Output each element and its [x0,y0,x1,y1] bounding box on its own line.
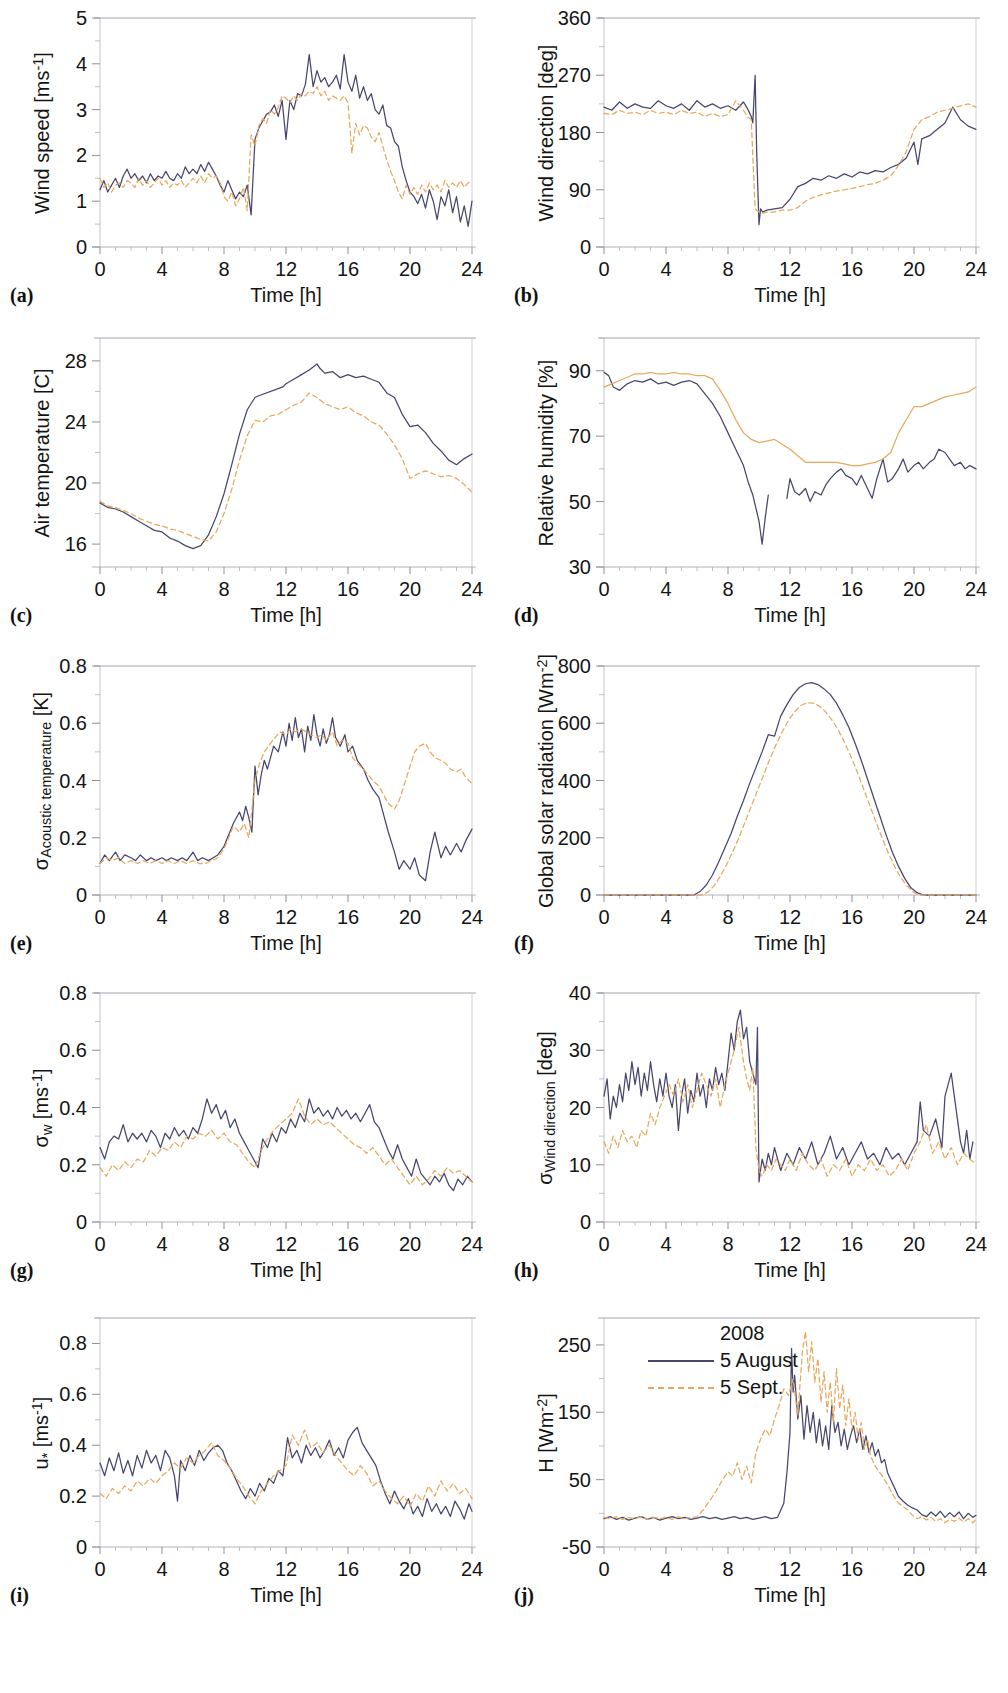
y-tick-label: 0.6 [59,1039,87,1061]
x-tick-label: 4 [156,1558,167,1580]
x-tick-label: 20 [399,906,421,928]
y-axis-label-c: Air temperature [C] [31,368,54,537]
subplot-b: 04812162024090180270360Wind direction [d… [504,0,1008,320]
x-tick-label: 12 [779,1233,801,1255]
x-tick-label: 0 [598,258,609,280]
panel-letter-b: (b) [514,284,538,307]
x-tick-label: 16 [841,906,863,928]
x-tick-label: 8 [218,1233,229,1255]
figure-root: 04812162024012345Wind speed [ms-1]Time [… [0,0,1008,1693]
y-tick-label: 24 [65,411,87,433]
x-tick-label: 8 [722,1558,733,1580]
x-tick-label: 16 [841,1558,863,1580]
y-tick-label: 20 [65,472,87,494]
x-tick-label: 16 [337,1558,359,1580]
y-tick-label: 28 [65,350,87,372]
plot-area-i: 0481216202400.20.40.60.8 [0,1300,504,1620]
y-tick-label: 0.6 [59,712,87,734]
y-axis-label-j: H [Wm-2] [534,1393,558,1472]
y-tick-label: 600 [558,712,591,734]
y-tick-label: 20 [569,1097,591,1119]
x-tick-label: 12 [275,906,297,928]
plot-area-d: 0481216202430507090 [504,320,1008,640]
y-tick-label: 270 [558,64,591,86]
y-tick-label: 400 [558,770,591,792]
y-tick-label: 360 [558,7,591,29]
plot-area-h: 04812162024010203040 [504,975,1008,1295]
x-tick-label: 0 [598,1233,609,1255]
y-tick-label: 0.2 [59,1154,87,1176]
subplot-e: 0481216202400.20.40.60.8σAcoustic temper… [0,648,504,968]
y-tick-label: -50 [562,1536,591,1558]
x-tick-label: 12 [275,1558,297,1580]
series-line-august [787,449,976,501]
x-tick-label: 4 [156,578,167,600]
x-tick-label: 0 [94,906,105,928]
y-tick-label: 0.2 [59,1485,87,1507]
x-tick-label: 24 [461,578,483,600]
panel-letter-i: (i) [10,1584,29,1607]
y-tick-label: 0.2 [59,827,87,849]
y-tick-label: 250 [558,1334,591,1356]
x-tick-label: 4 [660,906,671,928]
series-line-september [604,703,976,895]
y-axis-label-i: u* [ms-1] [29,1396,55,1469]
x-tick-label: 24 [965,906,987,928]
plot-area-e: 0481216202400.20.40.60.8 [0,648,504,968]
x-tick-label: 4 [156,258,167,280]
x-axis-label-h: Time [h] [690,1259,890,1282]
x-tick-label: 8 [218,258,229,280]
x-tick-label: 12 [275,258,297,280]
x-tick-label: 4 [156,906,167,928]
y-axis-label-f: Global solar radiation [Wm-2] [534,653,558,907]
x-tick-label: 20 [399,258,421,280]
x-tick-label: 24 [965,578,987,600]
x-tick-label: 12 [779,1558,801,1580]
x-tick-label: 0 [598,906,609,928]
x-axis-label-b: Time [h] [690,284,890,307]
x-tick-label: 8 [218,1558,229,1580]
y-axis-label-h: σWind direction [deg] [534,1031,559,1185]
series-line-august [604,75,976,224]
subplot-a: 04812162024012345Wind speed [ms-1]Time [… [0,0,504,320]
y-tick-label: 5 [76,7,87,29]
x-tick-label: 8 [722,258,733,280]
y-axis-label-e: σAcoustic temperature [K] [30,691,55,869]
panel-letter-h: (h) [514,1259,538,1282]
y-tick-label: 0 [580,884,591,906]
series-line-september [604,101,976,214]
y-tick-label: 0 [76,1536,87,1558]
panel-letter-c: (c) [10,604,32,627]
panel-letter-e: (e) [10,932,32,955]
x-tick-label: 8 [722,906,733,928]
y-tick-label: 0.4 [59,770,87,792]
series-line-september [100,729,472,864]
x-tick-label: 12 [779,578,801,600]
x-tick-label: 20 [903,1558,925,1580]
x-axis-label-a: Time [h] [186,284,386,307]
x-tick-label: 12 [275,578,297,600]
panel-letter-f: (f) [514,932,534,955]
y-tick-label: 90 [569,179,591,201]
x-tick-label: 12 [275,1233,297,1255]
x-axis-label-i: Time [h] [186,1584,386,1607]
x-axis-label-e: Time [h] [186,932,386,955]
x-tick-label: 8 [218,578,229,600]
x-tick-label: 8 [218,906,229,928]
series-line-september [604,372,976,465]
y-tick-label: 0.4 [59,1097,87,1119]
y-tick-label: 16 [65,533,87,555]
subplot-f: 048121620240200400600800Global solar rad… [504,648,1008,968]
series-line-september [100,87,472,211]
x-tick-label: 16 [337,258,359,280]
x-axis-label-d: Time [h] [690,604,890,627]
x-tick-label: 8 [722,578,733,600]
y-tick-label: 40 [569,982,591,1004]
y-tick-label: 50 [569,491,591,513]
subplot-i: 0481216202400.20.40.60.8u* [ms-1]Time [h… [0,1300,504,1620]
x-tick-label: 16 [841,578,863,600]
subplot-c: 0481216202416202428Air temperature [C]Ti… [0,320,504,640]
x-tick-label: 20 [903,578,925,600]
x-tick-label: 24 [461,1233,483,1255]
x-tick-label: 0 [598,1558,609,1580]
